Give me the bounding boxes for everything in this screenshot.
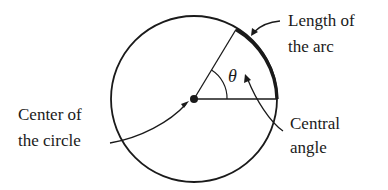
angle-leader-arrowhead — [244, 74, 251, 83]
angle-leader — [248, 80, 283, 131]
theta-symbol: θ — [228, 66, 237, 86]
center-leader — [110, 104, 186, 143]
arc-length-label-line1: Length of — [288, 11, 355, 30]
diagram-canvas: θ Length of the arc Center of the circle… — [0, 0, 388, 190]
center-leader-arrowhead — [181, 101, 189, 108]
arc-leader — [254, 21, 280, 32]
angle-arc — [212, 70, 228, 99]
center-point — [190, 95, 198, 103]
arc-length-label-line2: the arc — [288, 37, 334, 56]
central-angle-label-line1: Central — [290, 114, 340, 133]
radius-angled — [194, 30, 236, 100]
arc-highlight — [236, 30, 277, 100]
center-label-line1: Center of — [18, 105, 82, 124]
central-angle-label-line2: angle — [290, 138, 327, 157]
center-label-line2: the circle — [18, 131, 81, 150]
